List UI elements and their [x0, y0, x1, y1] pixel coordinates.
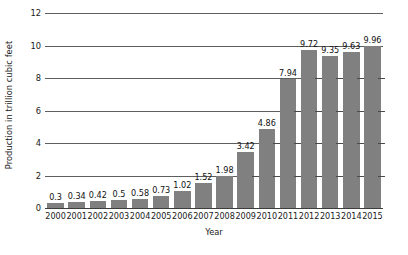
bar-value-label: 0.3: [49, 192, 62, 202]
y-tick-label: 10: [30, 41, 41, 51]
bar-slot: 1.982008: [214, 13, 235, 208]
bar-chart-screenshot: Production in trillion cubic feet 024681…: [0, 0, 408, 255]
bar[interactable]: [216, 176, 232, 208]
bar[interactable]: [259, 129, 275, 208]
x-tick-label: 2014: [341, 211, 362, 221]
bar-value-label: 0.58: [131, 188, 149, 198]
x-tick-label: 2000: [45, 211, 66, 221]
tick-stub: [294, 143, 301, 144]
bar[interactable]: [132, 199, 148, 208]
bar-value-label: 9.72: [300, 39, 318, 49]
bar-value-label: 9.35: [321, 45, 339, 55]
tick-stub: [336, 111, 343, 112]
y-axis-title-text: Production in trillion cubic feet: [4, 41, 14, 169]
tick-stub: [273, 143, 280, 144]
bar-value-label: 7.94: [279, 68, 297, 78]
bar-value-label: 3.42: [237, 141, 255, 151]
x-tick-label: 2008: [214, 211, 235, 221]
bar[interactable]: [47, 203, 63, 208]
tick-stub: [294, 176, 301, 177]
y-axis-title: Production in trillion cubic feet: [0, 0, 18, 210]
gridline-0: [45, 208, 383, 209]
tick-stub: [357, 78, 364, 79]
bar[interactable]: [301, 50, 317, 208]
bar-value-label: 4.86: [258, 118, 276, 128]
tick-stub: [315, 78, 322, 79]
tick-stub: [378, 143, 385, 144]
x-tick-label: 2001: [66, 211, 87, 221]
tick-stub: [357, 176, 364, 177]
bar-slot: 4.862010: [256, 13, 277, 208]
bar-value-label: 0.73: [152, 185, 170, 195]
x-tick-label: 2002: [88, 211, 109, 221]
bar-value-label: 0.42: [89, 190, 107, 200]
bar-value-label: 0.34: [68, 191, 86, 201]
bar-slot: 3.422009: [235, 13, 256, 208]
tick-stub: [378, 78, 385, 79]
bar-value-label: 9.63: [342, 41, 360, 51]
x-tick-label: 2006: [172, 211, 193, 221]
tick-stub: [273, 176, 280, 177]
y-tick-label: 8: [36, 73, 41, 83]
y-tick-label: 12: [30, 8, 41, 18]
x-tick-label: 2011: [278, 211, 299, 221]
bar-slot: 0.342001: [66, 13, 87, 208]
tick-stub: [336, 78, 343, 79]
bar[interactable]: [111, 200, 127, 208]
x-tick-label: 2013: [320, 211, 341, 221]
tick-stub: [378, 176, 385, 177]
x-tick-label: 2005: [151, 211, 172, 221]
tick-stub: [336, 143, 343, 144]
x-tick-label: 2007: [193, 211, 214, 221]
bar-slot: 0.422002: [87, 13, 108, 208]
bar-value-label: 1.98: [216, 165, 234, 175]
y-tick-label: 2: [36, 171, 41, 181]
bar-value-label: 1.02: [173, 180, 191, 190]
tick-stub: [294, 111, 301, 112]
bar-slot: 0.52003: [108, 13, 129, 208]
y-tick-label: 0: [36, 203, 41, 213]
y-tick-label: 4: [36, 138, 41, 148]
bar-slot: 0.582004: [130, 13, 151, 208]
bar[interactable]: [237, 152, 253, 208]
x-tick-label: 2009: [235, 211, 256, 221]
bar[interactable]: [153, 196, 169, 208]
x-tick-label: 2004: [130, 211, 151, 221]
x-axis-title: Year: [45, 227, 383, 237]
x-tick-label: 2010: [257, 211, 278, 221]
bar-slot: 0.732005: [151, 13, 172, 208]
bar[interactable]: [343, 52, 359, 208]
tick-stub: [357, 143, 364, 144]
bar-slot: 1.522007: [193, 13, 214, 208]
bar-value-label: 9.96: [363, 35, 381, 45]
tick-stub: [252, 176, 259, 177]
tick-stub: [336, 176, 343, 177]
bar-value-label: 0.5: [113, 189, 126, 199]
x-tick-label: 2012: [299, 211, 320, 221]
tick-stub: [315, 111, 322, 112]
bar-slot: 1.022006: [172, 13, 193, 208]
bar[interactable]: [68, 202, 84, 208]
bar[interactable]: [90, 201, 106, 208]
bar-slot: 0.32000: [45, 13, 66, 208]
bar[interactable]: [364, 46, 380, 208]
tick-stub: [315, 143, 322, 144]
tick-stub: [378, 111, 385, 112]
plot-area: 024681012 0.320000.3420010.4220020.52003…: [45, 13, 383, 208]
bars-group: 0.320000.3420010.4220020.520030.5820040.…: [45, 13, 383, 208]
tick-stub: [357, 111, 364, 112]
tick-stub: [315, 176, 322, 177]
bar[interactable]: [195, 183, 211, 208]
x-tick-label: 2015: [362, 211, 383, 221]
bar-value-label: 1.52: [194, 172, 212, 182]
y-tick-label: 6: [36, 106, 41, 116]
bar[interactable]: [174, 191, 190, 208]
x-tick-label: 2003: [109, 211, 130, 221]
